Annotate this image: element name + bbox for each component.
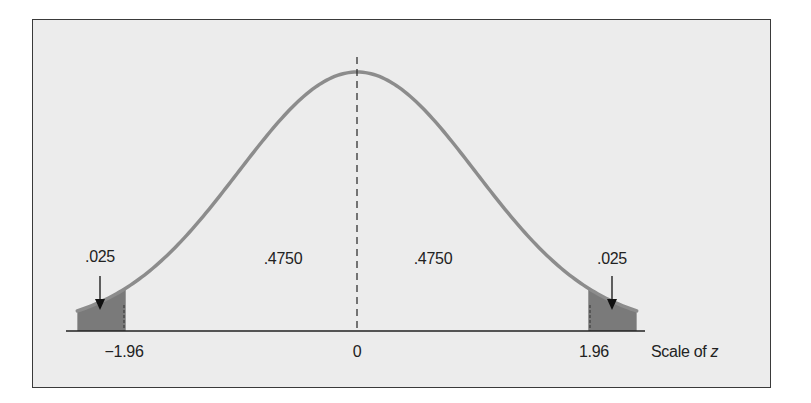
right-center-area-label: .4750 [414, 250, 453, 268]
left-tail-area-label: .025 [85, 248, 115, 266]
x-axis-label: Scale of z [651, 343, 718, 361]
x-axis-label-variable: z [711, 343, 719, 360]
tick-label-zero: 0 [353, 343, 362, 361]
tick-label-1-96: 1.96 [579, 343, 609, 361]
right-tail-area-label: .025 [597, 250, 627, 268]
x-axis-label-prefix: Scale of [651, 343, 711, 360]
tick-label-neg-1-96: −1.96 [105, 343, 144, 361]
left-center-area-label: .4750 [264, 250, 303, 268]
